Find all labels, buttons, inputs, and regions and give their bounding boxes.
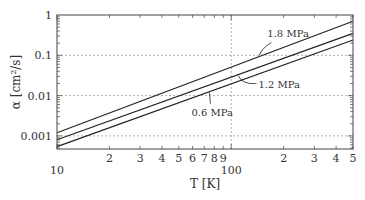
- svg-text:2: 2: [280, 152, 287, 165]
- svg-text:1: 1: [45, 9, 52, 22]
- svg-text:0.6 MPa: 0.6 MPa: [191, 107, 233, 118]
- svg-text:7: 7: [201, 152, 208, 165]
- svg-text:6: 6: [189, 152, 196, 165]
- series-line-2: [57, 40, 353, 147]
- series-annotations: 1.8 MPa1.2 MPa0.6 MPa: [191, 28, 308, 118]
- diffusivity-chart: 10.10.010.001 23456789234510100 1.8 MPa1…: [0, 0, 365, 200]
- data-lines: [57, 21, 353, 146]
- svg-text:1.2 MPa: 1.2 MPa: [258, 79, 300, 90]
- y-tick-labels: 10.10.010.001: [21, 9, 53, 143]
- x-tick-labels: 23456789234510100: [50, 152, 357, 177]
- svg-text:8: 8: [211, 152, 218, 165]
- svg-text:4: 4: [333, 152, 340, 165]
- svg-text:1.8 MPa: 1.8 MPa: [267, 28, 309, 39]
- series-line-1: [57, 33, 353, 139]
- x-axis-label: T [K]: [190, 177, 220, 191]
- svg-text:100: 100: [221, 164, 242, 177]
- svg-text:2: 2: [106, 152, 113, 165]
- svg-text:0.01: 0.01: [28, 90, 53, 103]
- svg-text:5: 5: [350, 152, 357, 165]
- svg-text:5: 5: [175, 152, 182, 165]
- svg-text:10: 10: [50, 164, 64, 177]
- svg-text:4: 4: [158, 152, 165, 165]
- svg-text:3: 3: [137, 152, 144, 165]
- svg-text:3: 3: [311, 152, 318, 165]
- svg-text:0.001: 0.001: [21, 130, 53, 143]
- y-axis-label: α [cm²/s]: [9, 55, 23, 109]
- svg-text:0.1: 0.1: [35, 49, 53, 62]
